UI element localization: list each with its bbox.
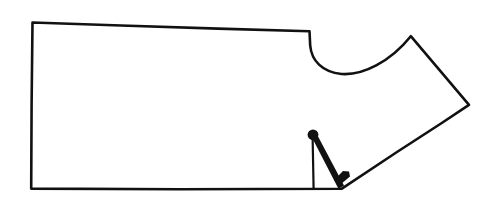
thin-vertical-stem bbox=[313, 137, 314, 190]
drawing-canvas: Hand-drawn garment pattern piece outline bbox=[0, 0, 495, 204]
pattern-drawing: Hand-drawn garment pattern piece outline bbox=[0, 0, 495, 204]
